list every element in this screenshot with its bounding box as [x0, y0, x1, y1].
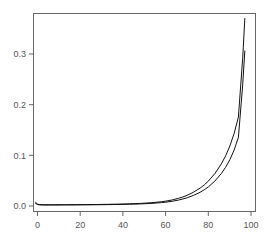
- x-tick-label-100: 100: [243, 220, 258, 230]
- y-tick-label-3: 0.3: [13, 49, 26, 59]
- y-tick-label-1: 0.1: [13, 151, 26, 161]
- x-tick-label-60: 60: [161, 220, 171, 230]
- y-tick-label-0: 0.0: [13, 201, 26, 211]
- y-tick-label-2: 0.2: [13, 100, 26, 110]
- x-tick-label-40: 40: [118, 220, 128, 230]
- chart-plot-area: 0.0 0.1 0.2 0.3 0 20 40 60 80 100: [0, 0, 269, 250]
- x-tick-label-20: 20: [75, 220, 85, 230]
- x-tick-label-80: 80: [203, 220, 213, 230]
- chart-background: [0, 0, 269, 250]
- x-tick-label-0: 0: [35, 220, 40, 230]
- chart-svg: 0.0 0.1 0.2 0.3 0 20 40 60 80 100: [0, 0, 269, 250]
